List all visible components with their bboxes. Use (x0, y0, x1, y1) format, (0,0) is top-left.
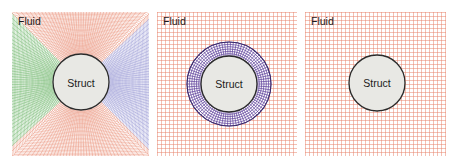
fluid-label: Fluid (18, 15, 41, 27)
struct-label: Struct (363, 77, 390, 89)
fluid-label: Fluid (311, 15, 334, 27)
panel-immersed-boundary: Fluid Struct (305, 12, 446, 156)
fluid-label: Fluid (163, 15, 186, 27)
struct-label: Struct (215, 78, 242, 90)
panel-overset-mesh: Fluid Struct (157, 12, 297, 156)
struct-label: Struct (67, 77, 94, 89)
panel-conforming-mesh: Fluid Struct (12, 12, 149, 156)
